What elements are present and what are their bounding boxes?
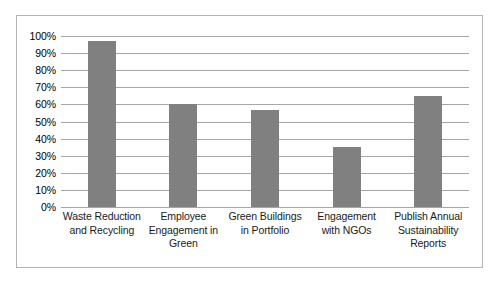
x-axis-category-label: Employee Engagement in Green <box>143 210 225 265</box>
y-axis-tick-label: 80% <box>35 64 56 76</box>
x-axis-category-label: Waste Reduction and Recycling <box>61 210 143 265</box>
y-axis-tick-label: 40% <box>35 133 56 145</box>
y-axis-tick-label: 20% <box>35 167 56 179</box>
bar[interactable] <box>88 41 116 207</box>
x-axis-category-label: Engagement with NGOs <box>306 210 388 265</box>
bar[interactable] <box>333 147 361 207</box>
y-axis: 100%90%80%70%60%50%40%30%20%10%0% <box>17 36 59 207</box>
y-axis-tick-label: 0% <box>41 201 56 213</box>
y-axis-tick-label: 50% <box>35 116 56 128</box>
axis-baseline <box>61 207 469 208</box>
bar[interactable] <box>251 110 279 207</box>
y-axis-tick-label: 30% <box>35 150 56 162</box>
x-axis-category-label: Publish Annual Sustainability Reports <box>387 210 469 265</box>
bar[interactable] <box>169 104 197 207</box>
y-axis-tick-label: 90% <box>35 47 56 59</box>
chart-screenshot: 100%90%80%70%60%50%40%30%20%10%0% Waste … <box>0 0 500 284</box>
y-axis-tick-label: 100% <box>30 30 56 42</box>
y-axis-tick-label: 70% <box>35 81 56 93</box>
x-axis-category-label: Green Buildings in Portfolio <box>224 210 306 265</box>
x-axis: Waste Reduction and RecyclingEmployee En… <box>61 210 469 265</box>
chart-frame: 100%90%80%70%60%50%40%30%20%10%0% Waste … <box>16 15 483 268</box>
y-axis-tick-label: 60% <box>35 98 56 110</box>
bar[interactable] <box>414 96 442 207</box>
y-axis-tick-label: 10% <box>35 184 56 196</box>
bar-series <box>61 36 469 207</box>
